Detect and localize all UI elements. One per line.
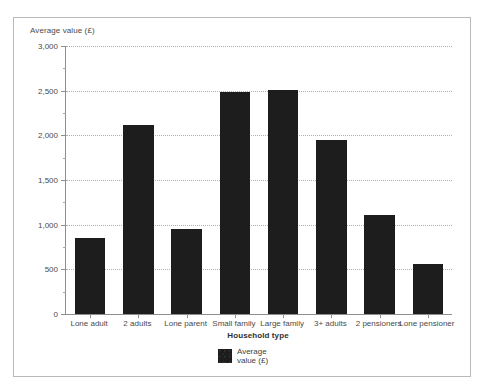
legend-swatch-average-value [218,349,232,363]
legend-entry: Average value (£) [218,348,268,365]
bar-lone-adult [75,238,105,314]
scan-top-text-sliver [0,0,486,9]
y-tick-label-1000: 1,000 [14,221,58,230]
x-axis-label-4: Large family [260,319,304,328]
x-axis-label-3: Small family [212,319,255,328]
y-tick-label-3000: 3,000 [14,42,58,51]
bars-group [66,46,452,314]
x-tick-4 [283,314,284,318]
x-axis-title: Household type [65,331,451,340]
x-tick-7 [428,314,429,318]
x-axis-label-7: Lone pensioner [399,319,454,328]
x-tick-6 [380,314,381,318]
x-axis-label-0: Lone adult [70,319,107,328]
x-axis-label-5: 3+ adults [314,319,347,328]
y-tick-label-500: 500 [14,265,58,274]
bar-2-pensioners [364,215,394,314]
x-tick-0 [90,314,91,318]
bar-lone-parent [171,229,201,314]
legend: Average value (£) [14,348,472,365]
x-axis-category-labels-group: Lone adult2 adultsLone parentSmall famil… [65,319,451,331]
bar-lone-pensioner [413,264,443,314]
x-axis-label-1: 2 adults [123,319,151,328]
bar-small-family [220,92,250,314]
x-tick-5 [331,314,332,318]
y-tick-0 [61,314,66,315]
x-axis-label-6: 2 pensioners [356,319,402,328]
x-tick-2 [187,314,188,318]
y-axis-title: Average value (£) [30,26,95,35]
y-tick-label-0: 0 [14,310,58,319]
chart-figure-frame: Average value (£) 05001,0001,5002,0002,5… [13,17,471,377]
plot-area: 05001,0001,5002,0002,5003,000 [65,46,452,315]
x-tick-1 [138,314,139,318]
bar-large-family [268,90,298,314]
bar-2-adults [123,125,153,314]
y-tick-label-2500: 2,500 [14,87,58,96]
x-tick-3 [235,314,236,318]
bar-3-adults [316,140,346,314]
x-axis-label-2: Lone parent [164,319,207,328]
y-tick-label-1500: 1,500 [14,176,58,185]
legend-label: Average value (£) [237,348,268,365]
y-tick-label-2000: 2,000 [14,131,58,140]
